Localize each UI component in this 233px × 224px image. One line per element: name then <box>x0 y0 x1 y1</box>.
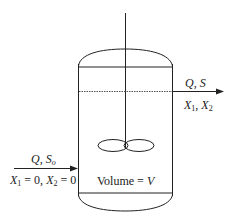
inlet-arrowhead <box>70 166 78 172</box>
substrate-symbol: S <box>200 76 206 90</box>
x2-value: = 0 <box>57 173 76 187</box>
volume-symbol: V <box>147 174 154 188</box>
x2-subscript: 2 <box>209 104 213 113</box>
x1-value: = 0, <box>21 173 46 187</box>
volume-label: Volume = V <box>97 175 154 187</box>
outlet-arrowhead <box>216 89 224 95</box>
inlet-top-label: Q, So <box>31 153 56 167</box>
outlet-top-label: Q, S <box>185 77 206 89</box>
x2-symbol: X <box>201 98 208 112</box>
outlet-bottom-label: X1, X2 <box>184 99 213 113</box>
volume-text: Volume = <box>97 174 147 188</box>
tank-bottom-cap <box>79 195 173 211</box>
substrate-subscript: o <box>52 158 56 167</box>
flow-symbol: Q <box>31 152 40 166</box>
flow-symbol: Q <box>185 76 194 90</box>
inlet-bottom-label: X1 = 0, X2 = 0 <box>10 174 76 188</box>
